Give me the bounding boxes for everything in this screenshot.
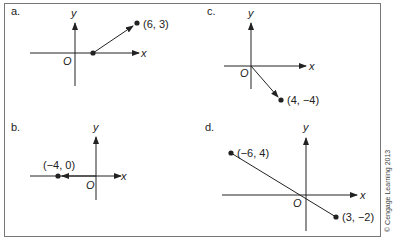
copyright-text: © Cengage Learning 2013 xyxy=(384,150,392,232)
panel-d: d. y x O (−6, 4) (3, −2) xyxy=(205,121,374,231)
panel-label: c. xyxy=(207,5,216,17)
x-axis-label: x xyxy=(120,170,127,182)
end-point xyxy=(134,20,139,25)
point-1-label: (−6, 4) xyxy=(237,147,269,159)
origin-label: O xyxy=(240,67,249,79)
panel-label: a. xyxy=(11,5,20,17)
y-axis-label: y xyxy=(247,7,255,19)
segment-line xyxy=(231,153,336,217)
y-axis-label: y xyxy=(70,7,78,19)
panel-c: c. y x O (4, −4) xyxy=(207,5,319,106)
vector-arrow xyxy=(93,26,133,53)
vector-arrow xyxy=(251,66,278,97)
point-label: (4, −4) xyxy=(287,94,319,106)
panel-a: a. y x O (6, 3) xyxy=(11,5,169,86)
x-axis-label: x xyxy=(359,189,366,201)
origin-label: O xyxy=(63,55,72,67)
point-label: (6, 3) xyxy=(143,18,169,30)
panel-b: b. y x O (−4, 0) xyxy=(11,121,127,200)
end-point xyxy=(55,173,60,178)
x-axis-label: x xyxy=(308,60,315,72)
point-1 xyxy=(228,150,233,155)
vector-diagram: a. y x O (6, 3) c. y x O (4, −4) b. y x … xyxy=(0,0,394,242)
panel-label: b. xyxy=(11,121,20,133)
origin-label: O xyxy=(86,179,95,191)
origin-label: O xyxy=(293,197,302,209)
panel-label: d. xyxy=(205,121,214,133)
x-axis-label: x xyxy=(140,47,147,59)
y-axis-label: y xyxy=(92,121,100,133)
figure-frame xyxy=(5,4,381,237)
end-point xyxy=(278,97,283,102)
y-axis-label: y xyxy=(302,121,310,133)
point-2-label: (3, −2) xyxy=(342,211,374,223)
point-2 xyxy=(333,214,338,219)
point-label: (−4, 0) xyxy=(43,159,75,171)
